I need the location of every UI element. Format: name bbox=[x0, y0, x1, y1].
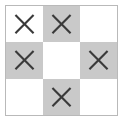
screenshot-root bbox=[0, 0, 125, 123]
cell-r3c2[interactable] bbox=[43, 79, 80, 115]
cell-r3c1[interactable] bbox=[6, 79, 43, 115]
cell-r3c3[interactable] bbox=[80, 79, 117, 115]
three-by-three-grid bbox=[6, 6, 117, 115]
x-mark-icon bbox=[6, 42, 43, 78]
x-mark-icon bbox=[6, 6, 43, 42]
grid-frame bbox=[5, 5, 118, 116]
cell-r2c3[interactable] bbox=[80, 42, 117, 78]
x-mark-icon bbox=[43, 6, 80, 42]
cell-r1c2[interactable] bbox=[43, 6, 80, 42]
x-mark-icon bbox=[43, 79, 80, 115]
cell-r1c1[interactable] bbox=[6, 6, 43, 42]
cell-r2c1[interactable] bbox=[6, 42, 43, 78]
x-mark-icon bbox=[80, 42, 117, 78]
cell-r1c3[interactable] bbox=[80, 6, 117, 42]
cell-r2c2[interactable] bbox=[43, 42, 80, 78]
